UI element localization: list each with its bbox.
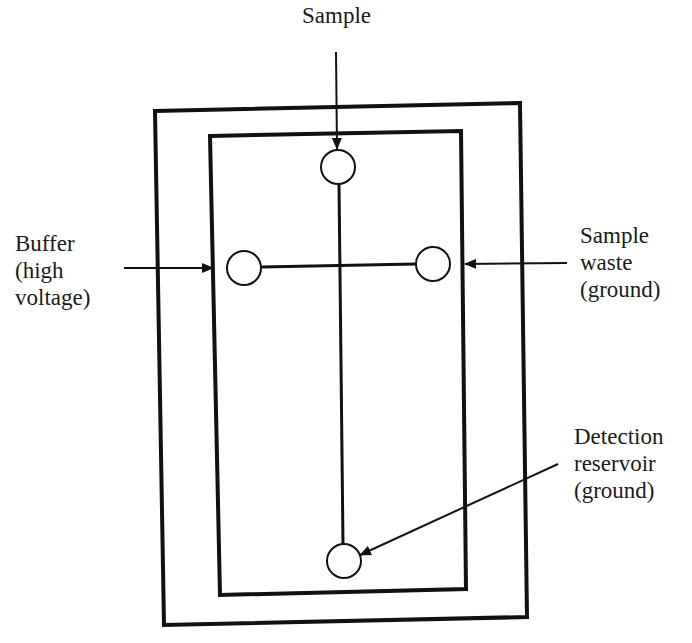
sample-waste-label-line-1: Sample xyxy=(580,222,660,249)
separation-channel xyxy=(339,184,343,544)
sample-waste-label-line-3: (ground) xyxy=(580,276,660,303)
chip-diagram xyxy=(0,0,692,643)
detection-label: Detection reservoir (ground) xyxy=(574,423,663,504)
sample-reservoir xyxy=(321,150,355,184)
buffer-label: Buffer (high voltage) xyxy=(15,230,90,311)
detection-label-line-1: Detection xyxy=(574,423,663,450)
buffer-label-line-3: voltage) xyxy=(15,284,90,311)
sample-waste-arrow xyxy=(465,263,567,264)
buffer-label-line-1: Buffer xyxy=(15,230,90,257)
detection-label-line-2: reservoir xyxy=(574,450,663,477)
detection-reservoir xyxy=(327,544,361,578)
buffer-label-line-2: (high xyxy=(15,257,90,284)
detection-arrow xyxy=(360,464,558,555)
sample-label: Sample xyxy=(302,2,371,29)
buffer-reservoir xyxy=(227,251,261,285)
sample-waste-reservoir xyxy=(416,247,450,281)
sample-waste-label-line-2: waste xyxy=(580,249,660,276)
sample-arrow xyxy=(336,52,337,149)
sample-waste-label: Sample waste (ground) xyxy=(580,222,660,303)
detection-label-line-3: (ground) xyxy=(574,477,663,504)
injection-channel xyxy=(261,264,416,267)
sample-label-line: Sample xyxy=(302,2,371,29)
